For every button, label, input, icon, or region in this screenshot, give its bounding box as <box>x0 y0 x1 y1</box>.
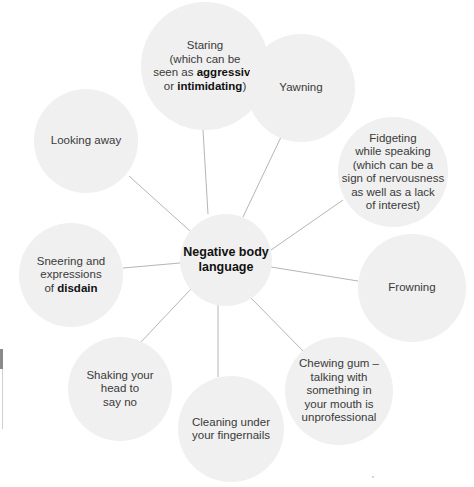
left-edge-artifact-outline <box>0 369 3 429</box>
node-label: Fidgetingwhile speaking(which can be asi… <box>342 132 444 213</box>
connector-line-fidgeting <box>271 200 343 250</box>
emphasized-text: disdain <box>57 282 97 294</box>
label-text: talking with <box>311 371 368 383</box>
label-text: of interest) <box>366 199 420 211</box>
label-text: Shaking your <box>86 369 153 381</box>
label-text: your mouth is <box>304 398 373 410</box>
node-label: Shaking yourhead tosay no <box>86 369 153 410</box>
label-text: Yawning <box>279 81 322 93</box>
label-text: Looking away <box>51 134 121 146</box>
label-text: Chewing gum – <box>299 357 379 369</box>
label-text: (which can be a <box>353 159 434 171</box>
connector-line-shaking-head <box>140 289 191 343</box>
node-label: Chewing gum –talking withsomething inyou… <box>299 357 379 425</box>
dot-artifact <box>372 476 374 478</box>
connector-line-chewing-gum <box>251 298 304 352</box>
node-label: Looking away <box>51 134 121 148</box>
node-chewing-gum: Chewing gum –talking withsomething inyou… <box>285 337 393 445</box>
emphasized-text: intimidating <box>177 80 242 92</box>
label-text: Frowning <box>388 281 435 293</box>
connector-line-yawning <box>243 137 281 217</box>
label-text: Fidgeting <box>369 132 416 144</box>
label-text: Sneering and <box>37 255 105 267</box>
node-shaking-head: Shaking yourhead tosay no <box>68 337 172 441</box>
label-text: Staring <box>187 39 223 51</box>
node-staring: Staring(which can beseen as aggressiveor… <box>141 2 269 130</box>
node-fidgeting: Fidgetingwhile speaking(which can be asi… <box>338 117 448 227</box>
node-label: Cleaning underyour fingernails <box>192 416 270 443</box>
node-frowning: Frowning <box>358 234 466 342</box>
label-text: say no <box>103 396 137 408</box>
connector-line-staring <box>203 130 208 214</box>
left-edge-artifact <box>0 349 3 369</box>
connector-line-frowning <box>271 267 358 281</box>
node-yawning: Yawning <box>247 34 355 142</box>
connector-line-looking-away <box>129 176 190 231</box>
node-label: Frowning <box>388 281 435 295</box>
connector-line-sneering <box>123 263 180 268</box>
label-text: while speaking <box>355 145 430 157</box>
center-label-line: language <box>199 260 254 274</box>
mind-map-diagram: Staring(which can beseen as aggressiveor… <box>0 0 474 487</box>
label-text: seen as <box>153 66 196 78</box>
node-sneering: Sneering andexpressionsof disdain <box>19 223 123 327</box>
label-text: ) <box>242 80 246 92</box>
node-label: Staring(which can beseen as aggressiveor… <box>153 39 257 93</box>
label-text: Cleaning under <box>192 416 270 428</box>
label-text: head to <box>101 382 139 394</box>
label-text: as well as a lack <box>351 186 435 198</box>
label-text: (which can be <box>170 53 241 65</box>
node-label: Yawning <box>279 81 322 95</box>
label-text: or <box>164 80 177 92</box>
center-node-negative-body-language: Negative body language <box>180 214 272 306</box>
center-node-label: Negative body language <box>183 245 268 275</box>
node-cleaning-fingernails: Cleaning underyour fingernails <box>178 376 284 482</box>
label-text: sign of nervousness <box>342 172 444 184</box>
node-looking-away: Looking away <box>34 89 138 193</box>
label-text: your fingernails <box>192 429 270 441</box>
node-label: Sneering andexpressionsof disdain <box>37 255 105 296</box>
label-text: unprofessional <box>302 411 377 423</box>
center-label-line: Negative body <box>183 245 268 259</box>
label-text: something in <box>306 384 371 396</box>
label-text: expressions <box>40 268 101 280</box>
label-text: of <box>44 282 57 294</box>
